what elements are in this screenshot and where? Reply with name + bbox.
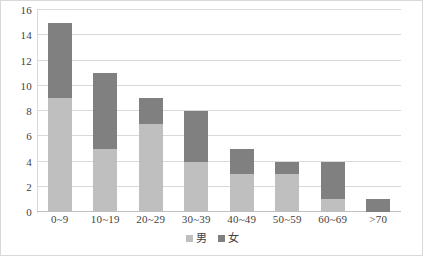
- y-axis-tick-label: 8: [2, 106, 32, 117]
- bar-segment-male[interactable]: [93, 149, 117, 212]
- bar-segment-female[interactable]: [230, 149, 254, 174]
- bar-segment-female[interactable]: [184, 111, 208, 162]
- bar-group: [37, 10, 401, 212]
- bar-column[interactable]: [310, 10, 356, 212]
- bar-segment-female[interactable]: [48, 23, 72, 99]
- legend-label: 女: [228, 233, 239, 244]
- bar-segment-male[interactable]: [230, 174, 254, 212]
- bar-stack[interactable]: [184, 111, 208, 212]
- legend-item[interactable]: 男: [186, 233, 207, 244]
- y-axis-tick-label: 6: [2, 131, 32, 142]
- bar-stack[interactable]: [366, 199, 390, 212]
- bar-segment-male[interactable]: [184, 162, 208, 213]
- legend-item[interactable]: 女: [218, 233, 239, 244]
- y-axis-tick-label: 10: [2, 80, 32, 91]
- bar-column[interactable]: [356, 10, 402, 212]
- bar-segment-male[interactable]: [275, 174, 299, 212]
- y-axis-tick-label: 0: [2, 207, 32, 218]
- x-axis-tick-label: 0~9: [37, 214, 83, 225]
- bar-segment-female[interactable]: [366, 199, 390, 212]
- bar-stack[interactable]: [321, 162, 345, 213]
- bar-column[interactable]: [37, 10, 83, 212]
- legend-swatch-male-icon: [186, 235, 193, 242]
- y-axis-labels: 0246810121416: [1, 10, 32, 212]
- y-axis-tick-label: 12: [2, 55, 32, 66]
- y-axis-tick-label: 16: [2, 5, 32, 16]
- y-axis-tick-label: 14: [2, 30, 32, 41]
- bar-segment-male[interactable]: [321, 199, 345, 212]
- bar-segment-female[interactable]: [321, 162, 345, 200]
- bar-segment-male[interactable]: [139, 124, 163, 212]
- bar-segment-female[interactable]: [275, 162, 299, 175]
- bar-segment-female[interactable]: [139, 98, 163, 123]
- bar-stack[interactable]: [275, 162, 299, 213]
- x-axis-tick-label: 20~29: [128, 214, 174, 225]
- y-axis-tick-label: 2: [2, 181, 32, 192]
- bar-stack[interactable]: [93, 73, 117, 212]
- x-axis-tick-label: >70: [356, 214, 402, 225]
- bar-column[interactable]: [83, 10, 129, 212]
- bar-column[interactable]: [174, 10, 220, 212]
- y-axis-tick-label: 4: [2, 156, 32, 167]
- chart-legend: 男女: [1, 233, 423, 244]
- bar-stack[interactable]: [48, 23, 72, 212]
- x-axis-tick-label: 10~19: [83, 214, 129, 225]
- x-axis-tick-label: 30~39: [174, 214, 220, 225]
- bar-segment-male[interactable]: [48, 98, 72, 212]
- chart-container: 0246810121416 0~910~1920~2930~3940~4950~…: [0, 0, 423, 256]
- bar-segment-female[interactable]: [93, 73, 117, 149]
- bar-column[interactable]: [265, 10, 311, 212]
- bar-stack[interactable]: [139, 98, 163, 212]
- x-axis-labels: 0~910~1920~2930~3940~4950~5960~69>70: [37, 214, 401, 225]
- x-axis-tick-label: 40~49: [219, 214, 265, 225]
- bar-column[interactable]: [128, 10, 174, 212]
- legend-label: 男: [196, 233, 207, 244]
- x-axis-tick-label: 60~69: [310, 214, 356, 225]
- legend-swatch-female-icon: [218, 235, 225, 242]
- x-axis-tick-label: 50~59: [265, 214, 311, 225]
- bar-column[interactable]: [219, 10, 265, 212]
- bar-stack[interactable]: [230, 149, 254, 212]
